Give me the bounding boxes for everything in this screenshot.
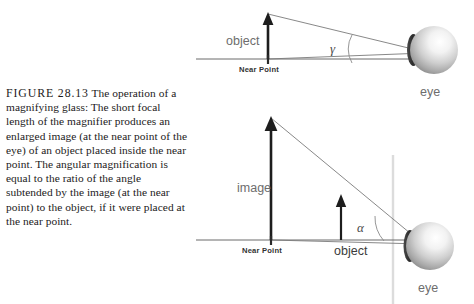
object-arrow [336, 194, 346, 240]
bottom-near-point-label: Near Point [242, 246, 282, 255]
bottom-diagram-group: image Near Point object α eye [196, 116, 454, 304]
top-diagram-group: object Near Point γ eye [196, 12, 458, 99]
top-ray-upper [268, 14, 425, 52]
bottom-ray-upper [271, 118, 422, 243]
top-object-arrow [263, 12, 274, 59]
optics-diagrams: object Near Point γ eye [0, 0, 474, 304]
image-arrow [265, 116, 278, 240]
bottom-angle-arc [375, 216, 384, 241]
top-near-point-label: Near Point [239, 65, 279, 74]
bottom-eye-label: eye [418, 281, 438, 295]
top-ray-lower [268, 53, 425, 59]
bottom-eye-graphic [404, 222, 455, 270]
figure-28-13: FIGURE 28.13 The operation of a magnifyi… [0, 0, 474, 304]
top-angle-label: γ [330, 41, 336, 56]
bottom-object-label: object [334, 244, 368, 258]
top-eye-graphic [407, 26, 458, 74]
top-eye-label: eye [420, 85, 440, 99]
image-label: image [237, 181, 271, 195]
top-object-label: object [226, 34, 260, 48]
bottom-angle-label: α [357, 220, 365, 235]
